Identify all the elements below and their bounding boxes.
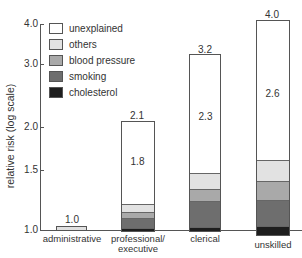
legend-label: cholesterol — [69, 87, 117, 98]
bar-clerical — [189, 54, 221, 232]
bar-total-label: 2.1 — [117, 111, 157, 121]
segment-smoking — [257, 200, 289, 226]
segment-others — [122, 204, 154, 212]
segment-cholesterol — [257, 226, 289, 235]
legend-label: smoking — [69, 71, 106, 82]
segment-blood-pressure — [257, 181, 289, 200]
bar-total-label: 1.0 — [52, 215, 92, 225]
unexplained-value: 1.8 — [121, 157, 154, 167]
legend-label: others — [69, 39, 97, 50]
segment-blood-pressure — [190, 189, 220, 201]
segment-others — [190, 173, 220, 189]
unexplained-value: 2.6 — [256, 89, 289, 99]
legend-swatch — [49, 39, 63, 50]
y-tick-3 — [40, 64, 44, 65]
legend-label: blood pressure — [69, 55, 135, 66]
legend-item-others: others — [49, 38, 97, 50]
legend-item-cholesterol: cholesterol — [49, 86, 117, 98]
y-tick-1-5 — [40, 170, 44, 171]
y-axis-title: relative risk (log scale) — [4, 81, 16, 191]
bar-professional-executive — [121, 121, 155, 232]
legend-item-blood-pressure: blood pressure — [49, 54, 135, 66]
bar-total-label: 4.0 — [252, 10, 292, 20]
legend-label: unexplained — [69, 23, 123, 34]
legend-item-smoking: smoking — [49, 70, 106, 82]
legend-swatch — [49, 23, 63, 34]
y-tick-label: 4.0 — [8, 19, 38, 29]
segment-smoking — [190, 201, 220, 227]
bar-unskilled — [256, 20, 290, 236]
x-label: executive — [98, 244, 178, 254]
segment-cholesterol — [122, 228, 154, 231]
unexplained-value: 2.3 — [189, 112, 222, 122]
y-tick-4 — [40, 24, 44, 25]
segment-smoking — [122, 218, 154, 228]
segment-others — [257, 160, 289, 181]
legend-item-unexplained: unexplained — [49, 22, 123, 34]
legend-swatch — [49, 55, 63, 66]
legend-swatch — [49, 71, 63, 82]
legend-swatch — [49, 87, 63, 98]
y-tick-label: 3.0 — [8, 59, 38, 69]
bar-administrative — [56, 226, 87, 231]
x-label: unskilled — [233, 240, 302, 250]
segment-cholesterol — [190, 227, 220, 231]
y-tick-2 — [40, 127, 44, 128]
